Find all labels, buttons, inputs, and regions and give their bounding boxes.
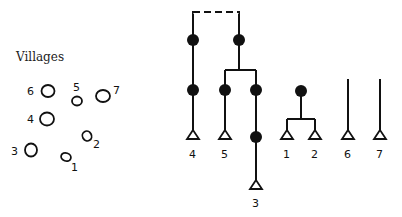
triangle-icon-2 bbox=[309, 130, 321, 139]
node-dot bbox=[295, 85, 307, 97]
leaf-labels: 4 5 3 1 2 6 7 bbox=[189, 148, 383, 210]
village-label-1: 1 bbox=[71, 161, 78, 174]
village-label-7: 7 bbox=[113, 84, 120, 97]
triangle-icon-7 bbox=[374, 130, 386, 139]
triangle-icon-5 bbox=[219, 130, 231, 139]
triangle-icon-6 bbox=[342, 130, 354, 139]
village-5 bbox=[72, 97, 82, 106]
village-4 bbox=[40, 113, 54, 126]
village-labels: 6 5 7 4 2 3 1 bbox=[11, 81, 120, 174]
village-label-4: 4 bbox=[27, 113, 34, 126]
node-dot bbox=[250, 131, 262, 143]
node-dot bbox=[187, 84, 199, 96]
triangle-icon-3 bbox=[250, 180, 262, 189]
kinship-diagram: 6 5 7 4 2 3 1 bbox=[0, 0, 402, 217]
village-2 bbox=[81, 129, 94, 142]
triangle-icon-4 bbox=[187, 130, 199, 139]
leaf-label-7: 7 bbox=[376, 148, 383, 161]
village-6 bbox=[42, 85, 55, 97]
node-dot bbox=[219, 84, 231, 96]
node-dot bbox=[250, 84, 262, 96]
node-dot bbox=[187, 34, 199, 46]
village-3 bbox=[25, 144, 37, 157]
village-label-5: 5 bbox=[73, 81, 80, 94]
triangle-icon-1 bbox=[281, 130, 293, 139]
leaf-label-6: 6 bbox=[344, 148, 351, 161]
node-dot bbox=[233, 34, 245, 46]
village-label-3: 3 bbox=[11, 145, 18, 158]
leaf-label-3: 3 bbox=[252, 197, 259, 210]
village-label-6: 6 bbox=[27, 85, 34, 98]
village-label-2: 2 bbox=[93, 138, 100, 151]
village-7 bbox=[96, 90, 110, 102]
leaf-label-4: 4 bbox=[189, 148, 196, 161]
leaf-label-2: 2 bbox=[311, 148, 318, 161]
tree-nodes bbox=[187, 34, 307, 143]
leaf-label-5: 5 bbox=[221, 148, 228, 161]
leaf-label-1: 1 bbox=[283, 148, 290, 161]
